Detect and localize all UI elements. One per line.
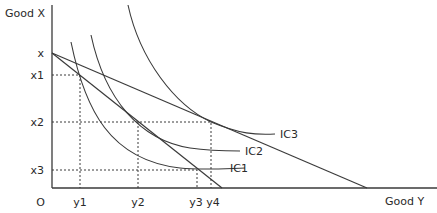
tick-x3: x3	[30, 164, 44, 177]
label-ic1: IC1	[230, 162, 248, 175]
tick-y1: y1	[73, 196, 87, 209]
guide-x2-y4	[52, 122, 211, 188]
budget-line-inner	[52, 53, 222, 188]
x-axis-title: Good Y	[385, 195, 424, 208]
diagram-canvas: IC3 IC2 IC1 Good X Good Y O x x1 x2 x3 y…	[0, 0, 437, 213]
guide-x3-y3	[52, 170, 197, 188]
tick-x: x	[37, 47, 44, 60]
indifference-curve-ic2	[91, 35, 240, 151]
guide-x1-y1	[52, 75, 80, 188]
tick-y4: y4	[206, 196, 220, 209]
tick-y3: y3	[189, 196, 203, 209]
indifference-curve-ic3	[128, 5, 275, 134]
label-ic2: IC2	[245, 145, 263, 158]
indifference-curve-diagram: IC3 IC2 IC1 Good X Good Y O x x1 x2 x3 y…	[0, 0, 437, 213]
tick-x2: x2	[30, 116, 44, 129]
label-ic3: IC3	[280, 128, 298, 141]
tick-y2: y2	[131, 196, 145, 209]
y-axis-title: Good X	[5, 7, 45, 20]
tick-x1: x1	[30, 69, 44, 82]
origin-label: O	[36, 196, 45, 209]
